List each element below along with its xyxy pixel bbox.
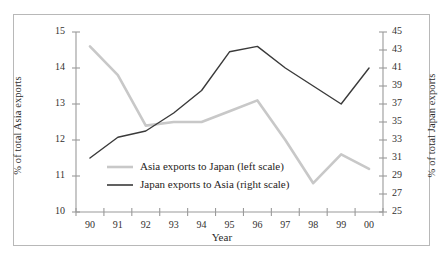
right-tick-label: 29 — [392, 169, 414, 180]
x-tick-label: 92 — [133, 219, 159, 230]
right-tick-label: 27 — [392, 187, 414, 198]
right-tick-label: 37 — [392, 97, 414, 108]
right-tick-label: 25 — [392, 205, 414, 216]
right-tick-label: 43 — [392, 43, 414, 54]
right-axis-title: % of total Japan exports — [426, 51, 437, 201]
chart-figure: % of total Asia exports % of total Japan… — [0, 0, 444, 263]
right-tick-label: 31 — [392, 151, 414, 162]
right-tick-label: 41 — [392, 61, 414, 72]
left-tick-label: 13 — [43, 97, 65, 108]
right-tick-label: 45 — [392, 25, 414, 36]
x-tick-label: 97 — [272, 219, 298, 230]
legend-label: Asia exports to Japan (left scale) — [140, 160, 284, 172]
x-tick-label: 98 — [300, 219, 326, 230]
left-tick-label: 10 — [43, 205, 65, 216]
x-tick-label: 94 — [189, 219, 215, 230]
left-tick-label: 12 — [43, 133, 65, 144]
left-tick-label: 15 — [43, 25, 65, 36]
left-tick-label: 11 — [43, 169, 65, 180]
x-tick-label: 96 — [244, 219, 270, 230]
right-tick-label: 35 — [392, 115, 414, 126]
left-axis-title: % of total Asia exports — [12, 51, 23, 201]
x-tick-label: 90 — [77, 219, 103, 230]
left-tick-label: 14 — [43, 61, 65, 72]
x-tick-label: 95 — [217, 219, 243, 230]
right-tick-label: 39 — [392, 79, 414, 90]
legend-label: Japan exports to Asia (right scale) — [140, 178, 289, 190]
right-tick-label: 33 — [392, 133, 414, 144]
x-tick-label: 91 — [105, 219, 131, 230]
x-tick-label: 99 — [328, 219, 354, 230]
x-axis-title: Year — [0, 231, 444, 243]
x-tick-label: 00 — [356, 219, 382, 230]
x-tick-label: 93 — [161, 219, 187, 230]
